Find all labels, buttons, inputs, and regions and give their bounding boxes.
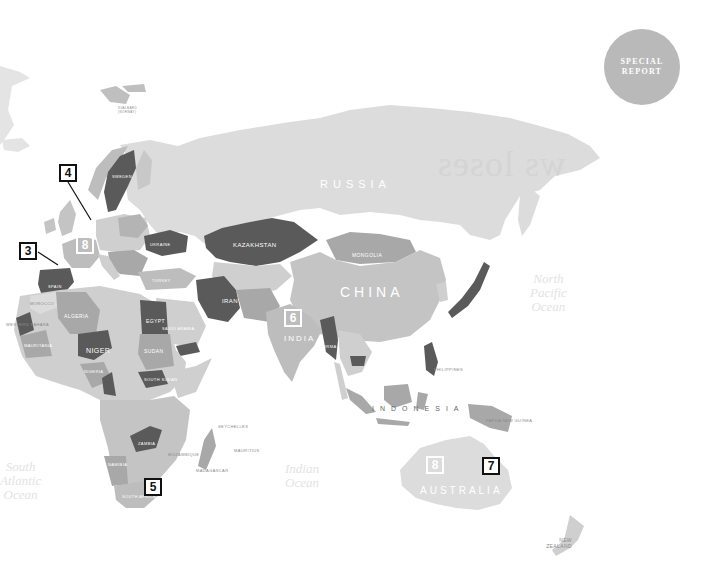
bleed-through-text: ws loses (437, 143, 566, 185)
label-indonesia: INDONESIA (372, 405, 465, 412)
marker-8-europe[interactable]: 8 (76, 236, 94, 254)
madagascar-landmass (198, 428, 216, 470)
ocean-line: Pacific (530, 286, 567, 300)
ocean-line: Ocean (530, 300, 567, 314)
label-india: INDIA (284, 334, 315, 343)
ocean-line: Atlantic (0, 474, 41, 488)
label-south-atlantic-ocean: South Atlantic Ocean (0, 460, 41, 502)
marker-7[interactable]: 7 (482, 457, 500, 475)
label-burma: BURMA (320, 344, 336, 349)
label-egypt: EGYPT (146, 318, 165, 324)
ocean-line: Ocean (0, 488, 41, 502)
marker-8-australia[interactable]: 8 (426, 456, 444, 474)
label-iran: IRAN (222, 298, 238, 304)
label-philippines: PHILIPPINES (434, 367, 463, 372)
label-indian-ocean: Indian Ocean (285, 462, 319, 490)
label-new-zealand: NEW ZEALAND (542, 537, 572, 549)
ocean-line: Indian (285, 462, 319, 476)
marker-6[interactable]: 6 (284, 309, 302, 327)
label-russia: RUSSIA (320, 178, 391, 190)
ocean-line: Ocean (285, 476, 319, 490)
label-kazakhstan: KAZAKHSTAN (233, 242, 277, 248)
special-report-badge: SPECIAL REPORT (604, 29, 680, 105)
label-sudan: SUDAN (144, 348, 164, 354)
label-mozambique: MOZAMBIQUE (168, 452, 199, 457)
java-landmass (376, 418, 410, 426)
iceland-landmass (2, 138, 30, 152)
label-sweden: SWEDEN (112, 174, 132, 179)
marker-5[interactable]: 5 (144, 478, 162, 496)
label-ukraine: UKRAINE (150, 242, 171, 247)
label-north-pacific-ocean: North Pacific Ocean (530, 272, 567, 314)
label-china: CHINA (340, 284, 404, 300)
label-mauritius: MAURITIUS (234, 448, 260, 453)
label-seychelles: SEYCHELLES (218, 424, 248, 429)
label-turkey: TURKEY (152, 278, 171, 283)
nz-landmass (552, 515, 584, 556)
label-spain: SPAIN (48, 284, 62, 289)
label-australia: AUSTRALIA (420, 485, 503, 496)
label-zambia: ZAMBIA (138, 441, 155, 446)
ireland-landmass (44, 218, 56, 234)
namibia-landmass (104, 456, 128, 486)
ocean-line: South (0, 460, 41, 474)
label-morocco: MOROCCO (30, 301, 54, 306)
marker-3[interactable]: 3 (19, 242, 37, 260)
special-report-line2: REPORT (622, 67, 662, 77)
label-papua-new-guinea: PAPUA NEW GUINEA (486, 418, 532, 423)
label-namibia: NAMIBIA (108, 462, 127, 467)
label-western-sahara: WESTERN SAHARA (6, 322, 49, 327)
label-algeria: ALGERIA (64, 313, 88, 319)
callout-line-3 (38, 252, 58, 265)
japan-landmass (448, 262, 490, 318)
greenland-landmass (0, 66, 30, 145)
label-niger: NIGER (86, 347, 110, 354)
special-report-line1: SPECIAL (620, 57, 663, 67)
cambodia-landmass (350, 356, 366, 366)
svalbard-east (122, 84, 146, 92)
marker-4[interactable]: 4 (59, 164, 77, 182)
kamchatka-landmass (518, 188, 540, 236)
label-mauritania: MAURITANIA (24, 343, 52, 348)
label-madagascar: MADAGASCAR (196, 468, 228, 473)
label-south-sudan: SOUTH SUDAN (144, 377, 178, 382)
label-nigeria: NIGERIA (84, 369, 103, 374)
label-saudi-arabia: SAUDI ARABIA (162, 326, 195, 331)
label-svalbard: SVALBARD (NORWAY) (118, 106, 142, 114)
ocean-line: North (530, 272, 567, 286)
label-mongolia: MONGOLIA (352, 252, 382, 258)
uk-landmass (58, 200, 76, 236)
